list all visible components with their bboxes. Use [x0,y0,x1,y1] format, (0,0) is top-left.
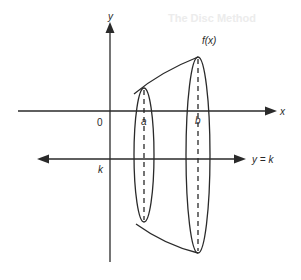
y-equals-k-label: y = k [251,154,274,165]
origin-label: 0 [97,117,103,128]
k-label: k [98,164,104,175]
y-axis-label: y [107,11,114,22]
disc-method-diagram: y x 0 a b k f(x) y = k [0,0,301,280]
x-axis-arrow-icon [265,107,277,116]
y-axis-arrow-icon [106,22,115,33]
line-left-arrow-icon [37,155,49,164]
function-curve-bottom [136,224,198,253]
a-label: a [141,116,147,127]
line-right-arrow-icon [234,155,246,164]
function-label: f(x) [202,35,216,46]
b-label: b [195,115,201,126]
x-axis-label: x [279,106,286,117]
